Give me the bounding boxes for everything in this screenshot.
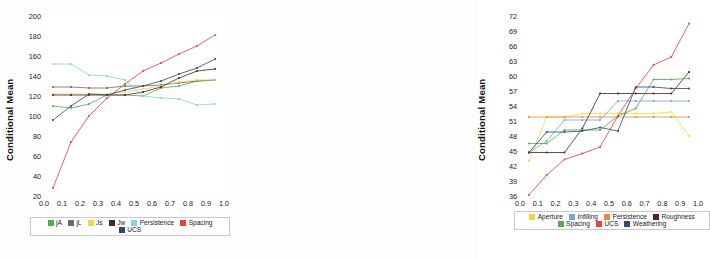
x-axis-tick: 0.0 xyxy=(515,199,525,208)
panel-b: Conditional Mean (b) 3639424548515457606… xyxy=(236,0,479,258)
x-axis-tick: 0.6 xyxy=(147,199,157,208)
legend-item[interactable]: UCS xyxy=(596,221,618,228)
panel-b-legend: ApertureInfillingPersistenceRoughnessSpa… xyxy=(514,211,710,230)
legend-item[interactable]: Js xyxy=(88,220,103,227)
y-axis-tick: 69 xyxy=(509,27,517,36)
y-axis-tick: 40 xyxy=(33,172,41,181)
y-axis-tick: 60 xyxy=(509,72,517,81)
y-axis-tick: 54 xyxy=(509,102,517,111)
legend-label: UCS xyxy=(604,221,618,228)
x-axis-tick: 0.4 xyxy=(586,199,596,208)
series-spacing xyxy=(52,34,216,189)
legend-item[interactable]: Jw xyxy=(109,220,126,227)
legend-label: Weathering xyxy=(633,221,667,228)
series-ucs xyxy=(528,23,690,196)
y-axis-tick: 42 xyxy=(509,162,517,171)
x-axis-tick: 0.1 xyxy=(533,199,543,208)
legend-swatch-icon xyxy=(180,220,186,226)
legend-item[interactable]: jL xyxy=(68,220,82,227)
panel-a-plot-area: 204060801001201401601802000.00.10.20.30.… xyxy=(44,16,224,196)
x-axis-tick: 0.7 xyxy=(640,199,650,208)
legend-label: Roughness xyxy=(661,214,694,221)
legend-label: jA xyxy=(56,220,62,227)
legend-label: Spacing xyxy=(566,221,590,228)
legend-swatch-icon xyxy=(119,227,125,233)
panel-b-y-axis-label: Conditional Mean xyxy=(474,50,488,190)
panel-a-y-axis-label: Conditional Mean xyxy=(2,50,16,190)
legend-swatch-icon xyxy=(68,220,74,226)
x-axis-tick: 0.0 xyxy=(39,199,49,208)
y-axis-tick: 51 xyxy=(509,117,517,126)
legend-swatch-icon xyxy=(109,220,115,226)
x-axis-tick: 0.7 xyxy=(165,199,175,208)
x-axis-tick: 0.9 xyxy=(675,199,685,208)
legend-label: Spacing xyxy=(189,220,213,227)
x-axis-tick: 1.0 xyxy=(693,199,703,208)
panel-a: Conditional Mean (a) 2040608010012014016… xyxy=(0,0,236,258)
y-axis-tick: 180 xyxy=(29,32,41,41)
series-infilling xyxy=(528,100,690,153)
panel-a-series-lines xyxy=(44,16,224,196)
legend-item[interactable]: Spacing xyxy=(180,220,212,227)
x-axis-tick: 0.8 xyxy=(183,199,193,208)
x-axis-tick: 0.4 xyxy=(111,199,121,208)
series-persistence xyxy=(528,116,690,118)
x-axis-tick: 0.5 xyxy=(129,199,139,208)
series-aperture xyxy=(528,111,690,162)
y-axis-tick: 63 xyxy=(509,57,517,66)
legend-swatch-icon xyxy=(596,221,602,227)
y-axis-tick: 200 xyxy=(29,12,41,21)
legend-label: jL xyxy=(76,220,81,227)
legend-item[interactable]: Weathering xyxy=(624,221,666,228)
legend-item[interactable]: jA xyxy=(48,220,62,227)
y-axis-tick: 160 xyxy=(29,52,41,61)
x-axis-tick: 0.3 xyxy=(568,199,578,208)
x-axis-tick: 0.5 xyxy=(604,199,614,208)
legend-item[interactable]: Aperture xyxy=(529,214,563,221)
x-axis-tick: 0.3 xyxy=(93,199,103,208)
y-axis-tick: 100 xyxy=(29,112,41,121)
x-axis-tick: 0.6 xyxy=(622,199,632,208)
legend-label: Js xyxy=(96,220,103,227)
x-axis-tick: 0.2 xyxy=(75,199,85,208)
y-axis-tick: 140 xyxy=(29,72,41,81)
legend-swatch-icon xyxy=(529,214,535,220)
y-axis-tick: 60 xyxy=(33,152,41,161)
x-axis-tick: 0.9 xyxy=(201,199,211,208)
x-axis-tick: 0.8 xyxy=(657,199,667,208)
legend-label: Aperture xyxy=(538,214,563,221)
y-axis-tick: 39 xyxy=(509,177,517,186)
legend-swatch-icon xyxy=(624,221,630,227)
panel-b-plot-area: 363942454851545760636669720.00.10.20.30.… xyxy=(520,16,698,196)
legend-swatch-icon xyxy=(88,220,94,226)
legend-label: Persistence xyxy=(140,220,174,227)
y-axis-tick: 80 xyxy=(33,132,41,141)
x-axis-tick: 0.1 xyxy=(57,199,67,208)
x-axis-tick: 1.0 xyxy=(219,199,229,208)
legend-swatch-icon xyxy=(48,220,54,226)
y-axis-tick: 72 xyxy=(509,12,517,21)
legend-item[interactable]: Spacing xyxy=(558,221,590,228)
legend-swatch-icon xyxy=(558,221,564,227)
legend-item[interactable]: UCS xyxy=(119,227,141,234)
y-axis-tick: 45 xyxy=(509,147,517,156)
y-axis-tick: 48 xyxy=(509,132,517,141)
legend-label: Jw xyxy=(117,220,125,227)
panel-b-series-lines xyxy=(520,16,698,196)
y-axis-tick: 120 xyxy=(29,92,41,101)
legend-label: UCS xyxy=(127,227,141,234)
y-axis-tick: 57 xyxy=(509,87,517,96)
panel-a-legend: jAjLJsJwPersistenceSpacingUCS xyxy=(30,217,230,236)
x-axis-tick: 0.2 xyxy=(551,199,561,208)
y-axis-tick: 66 xyxy=(509,42,517,51)
series-weathering xyxy=(528,86,690,153)
